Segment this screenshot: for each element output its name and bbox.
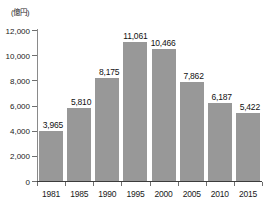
- x-axis-category-label: 2015: [234, 189, 262, 200]
- bar-value-label: 10,466: [137, 38, 176, 48]
- x-axis-category-label: 1990: [93, 189, 121, 200]
- bar-value-label: 3,965: [24, 120, 63, 130]
- bar-value-label: 6,187: [193, 92, 232, 102]
- x-axis-category-label: 2005: [178, 189, 206, 200]
- x-axis-category-label: 1981: [37, 189, 65, 200]
- bar-value-label: 5,810: [53, 97, 92, 107]
- bar: [236, 113, 260, 181]
- bar-chart: (億円) 02,0004,0006,0008,00010,00012,000 3…: [0, 0, 266, 210]
- bar: [67, 108, 91, 181]
- bar-value-label: 8,175: [81, 67, 120, 77]
- bar: [123, 42, 147, 181]
- bar: [208, 103, 232, 181]
- x-axis-category-label: 1985: [65, 189, 93, 200]
- bar: [152, 49, 176, 181]
- bar-value-label: 7,862: [165, 71, 204, 81]
- x-axis-category-label: 1995: [121, 189, 149, 200]
- x-axis-category-label: 2010: [206, 189, 234, 200]
- x-axis-category-label: 2000: [150, 189, 178, 200]
- bar: [39, 131, 63, 181]
- bar-value-label: 5,422: [221, 102, 260, 112]
- bar: [95, 78, 119, 181]
